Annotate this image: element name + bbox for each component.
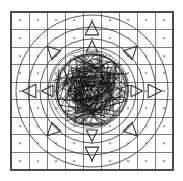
grid-cell-mark: ×: [144, 105, 147, 111]
grid-cell-mark: ×: [36, 158, 39, 164]
grid-cell-mark: ×: [126, 17, 129, 23]
grid-cell-mark: ×: [108, 17, 111, 23]
grid-cell-mark: ×: [126, 70, 129, 76]
grid-cell-mark: ×: [162, 53, 165, 59]
grid-cell-mark: ×: [108, 35, 111, 41]
grid-cell-mark: ×: [144, 70, 147, 76]
grid-cell-mark: ×: [162, 35, 165, 41]
grid-cell-mark: ×: [72, 35, 75, 41]
grid-cell-mark: ×: [162, 17, 165, 23]
grid-cell-mark: ×: [162, 123, 165, 129]
grid-cell-mark: ×: [144, 88, 147, 94]
grid-cell-mark: ×: [162, 158, 165, 164]
grid-cell-mark: ×: [162, 88, 165, 94]
grid-cell-mark: ×: [18, 158, 21, 164]
grid-cell-mark: ×: [126, 105, 129, 111]
grid-cell-mark: ×: [72, 17, 75, 23]
grid-cell-mark: ×: [36, 17, 39, 23]
grid-cell-mark: ×: [18, 35, 21, 41]
grid-cell-mark: ×: [18, 17, 21, 23]
grid-cell-mark: ×: [36, 105, 39, 111]
grid-cell-mark: ×: [36, 70, 39, 76]
grid-cell-mark: ×: [72, 158, 75, 164]
grid-cell-mark: ×: [144, 158, 147, 164]
grid-cell-mark: ×: [54, 17, 57, 23]
figure-root: ××××××××××××××××××××××××××××××××××××××××…: [0, 0, 183, 181]
grid-cell-mark: ×: [72, 140, 75, 146]
grid-cell-mark: ×: [108, 123, 111, 129]
grid-cell-mark: ×: [108, 140, 111, 146]
grid-cell-mark: ×: [18, 140, 21, 146]
grid-cell-mark: ×: [162, 105, 165, 111]
grid-cell-mark: ×: [36, 88, 39, 94]
grid-cell-mark: ×: [162, 140, 165, 146]
figure-canvas: ××××××××××××××××××××××××××××××××××××××××…: [0, 0, 183, 181]
grid-cell-mark: ×: [108, 158, 111, 164]
grid-cell-mark: ×: [144, 17, 147, 23]
grid-cell-mark: ×: [18, 53, 21, 59]
grid-cell-mark: ×: [18, 123, 21, 129]
grid-cell-mark: ×: [18, 88, 21, 94]
grid-cell-mark: ×: [18, 105, 21, 111]
